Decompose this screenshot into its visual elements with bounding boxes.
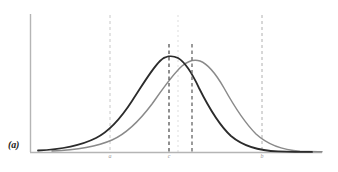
figure-container: (a) a c b: [0, 0, 338, 172]
tick-label-c: c: [168, 153, 171, 159]
tick-label-b: b: [261, 153, 264, 159]
panel-label: (a): [8, 140, 19, 150]
tick-label-a: a: [109, 153, 112, 159]
distribution-plot: [0, 0, 338, 172]
